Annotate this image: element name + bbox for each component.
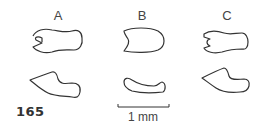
specimen-a-dorsal-outline	[33, 29, 82, 52]
column-label-b: B	[138, 8, 147, 23]
scale-bar	[118, 104, 169, 107]
specimen-c-lateral-outline	[202, 68, 249, 92]
specimen-c-dorsal-outline	[204, 31, 248, 53]
figure-number: 165	[16, 104, 45, 119]
figure-panel: A B C 165 1 mm	[0, 0, 269, 130]
scale-bar-label: 1 mm	[128, 110, 158, 124]
column-label-a: A	[54, 8, 63, 23]
specimen-b-dorsal-outline	[124, 28, 164, 52]
column-label-c: C	[222, 8, 231, 23]
specimen-b-lateral-outline	[124, 78, 165, 92]
specimen-a-lateral-outline	[30, 72, 80, 98]
